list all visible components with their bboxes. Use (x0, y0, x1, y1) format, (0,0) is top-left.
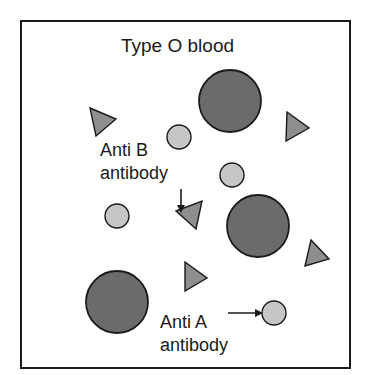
type-o-blood-diagram: Type O blood Anti B antibody Anti A anti… (0, 0, 365, 375)
red-blood-cell (86, 271, 148, 333)
anti-a-antibody (167, 125, 191, 149)
anti-b-label-line1: Anti B (100, 140, 148, 160)
anti-a-antibody (220, 163, 244, 187)
anti-a-antibody (105, 204, 129, 228)
anti-a-label-line1: Anti A (160, 312, 207, 332)
anti-b-label-line2: antibody (100, 163, 168, 183)
red-blood-cell (227, 195, 289, 257)
anti-a-antibody (262, 301, 286, 325)
diagram-title: Type O blood (121, 35, 234, 56)
anti-a-label-line2: antibody (160, 335, 228, 355)
red-blood-cell (199, 70, 261, 132)
